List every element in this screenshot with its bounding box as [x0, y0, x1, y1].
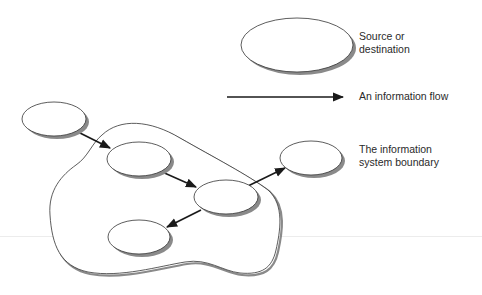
- legend-source-line1: Source or: [359, 30, 410, 43]
- node-ellipse-d: [280, 141, 345, 178]
- legend-boundary-line1: The information: [359, 143, 439, 156]
- legend-boundary-label: The information system boundary: [359, 143, 439, 169]
- legend-source-line2: destination: [359, 43, 410, 56]
- flow-arrow-c-to-d: [248, 168, 285, 186]
- legend-source-label: Source or destination: [359, 30, 410, 56]
- legend-source-ellipse: [241, 18, 356, 75]
- legend-boundary-line2: system boundary: [359, 156, 439, 169]
- legend-flow-label: An information flow: [359, 90, 448, 103]
- node-ellipse-a: [22, 102, 89, 139]
